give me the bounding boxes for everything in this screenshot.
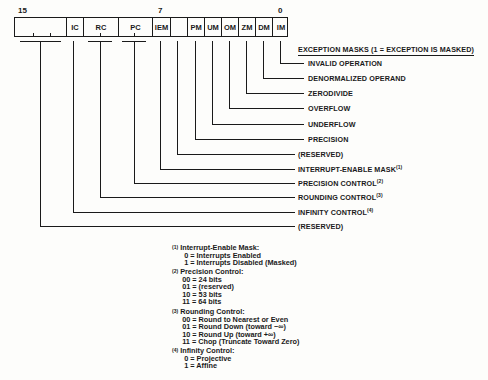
footnote-line: 1 = Interrupts Disabled (Masked) xyxy=(184,258,297,267)
leader-om xyxy=(229,41,230,108)
leader-zm xyxy=(246,41,247,93)
label-underflow: UNDERFLOW xyxy=(308,120,356,129)
leader-pc xyxy=(134,41,135,183)
label-precision: PRECISION xyxy=(308,135,348,144)
leader-h-om xyxy=(229,108,304,109)
footnote-mark: (1) xyxy=(172,244,178,250)
label-invalid-operation: INVALID OPERATION xyxy=(308,59,382,68)
leader-h-iem xyxy=(160,169,295,170)
cell-zm: ZM xyxy=(238,18,255,36)
cell-reserved-bit6 xyxy=(170,18,187,36)
cell-im: IM xyxy=(272,18,289,36)
leader-h-zm xyxy=(246,93,304,94)
footnote-mark: (2) xyxy=(172,268,178,274)
label-overflow: OVERFLOW xyxy=(308,104,350,113)
footnote-3: (3) Rounding Control: 00 = Round to Near… xyxy=(172,308,299,346)
label-text: PRECISION CONTROL xyxy=(298,179,377,188)
label-rounding-control: ROUNDING CONTROL(3) xyxy=(298,193,383,202)
label-denormalized-operand: DENORMALIZED OPERAND xyxy=(308,74,406,83)
leader-um xyxy=(212,41,213,124)
footnote-ref: (3) xyxy=(376,192,382,198)
leader-h-dm xyxy=(263,78,304,79)
leader-pm xyxy=(195,41,196,139)
footnote-mark: (3) xyxy=(172,308,178,314)
label-text: INTERRUPT-ENABLE MASK xyxy=(298,165,396,174)
cell-dm: DM xyxy=(255,18,272,36)
label-reserved-high: (RESERVED) xyxy=(298,222,343,231)
leader-h-pm xyxy=(195,139,304,140)
footnote-ref: (4) xyxy=(367,207,373,213)
footnote-ref: (1) xyxy=(396,164,402,170)
leader-h-ic xyxy=(73,212,295,213)
bit-number-15: 15 xyxy=(18,6,27,15)
footnote-ref: (2) xyxy=(377,178,383,184)
exception-masks-header: EXCEPTION MASKS (1 = EXCEPTION IS MASKED… xyxy=(298,45,474,56)
leader-iem xyxy=(160,41,161,169)
tick-mark xyxy=(134,33,135,37)
cell-pm: PM xyxy=(187,18,204,36)
leader-reserved-high xyxy=(40,41,41,226)
label-reserved-bit6: (RESERVED) xyxy=(298,150,343,159)
tick-mark xyxy=(100,33,101,37)
leader-h-im xyxy=(280,63,304,64)
leader-h-um xyxy=(212,124,304,125)
leader-dm xyxy=(263,41,264,78)
footnote-line: 1 = Affine xyxy=(184,361,217,370)
label-infinity-control: INFINITY CONTROL(4) xyxy=(298,208,373,217)
leader-ic xyxy=(73,41,74,212)
label-zerodivide: ZERODIVIDE xyxy=(308,89,353,98)
footnote-4: (4) Infinity Control: 0 = Projective 1 =… xyxy=(172,347,234,370)
label-text: ROUNDING CONTROL xyxy=(298,193,376,202)
label-interrupt-enable-mask: INTERRUPT-ENABLE MASK(1) xyxy=(298,165,402,174)
control-word-register: IC RC PC IEM PM UM OM ZM DM IM xyxy=(14,17,288,37)
footnote-mark: (4) xyxy=(172,347,178,353)
footnote-1: (1) Interrupt-Enable Mask: 0 = Interrupt… xyxy=(172,244,297,267)
leader-h-pc xyxy=(134,183,295,184)
label-precision-control: PRECISION CONTROL(2) xyxy=(298,179,383,188)
cell-om: OM xyxy=(221,18,238,36)
cell-um: UM xyxy=(204,18,221,36)
cell-iem: IEM xyxy=(152,18,170,36)
leader-h-rc xyxy=(100,197,295,198)
cell-ic: IC xyxy=(66,18,83,36)
leader-h-reserved-bit6 xyxy=(177,154,295,155)
leader-im xyxy=(280,41,281,63)
tick-mark xyxy=(33,33,34,37)
leader-rc xyxy=(100,41,101,197)
tick-mark xyxy=(50,33,51,37)
label-text: INFINITY CONTROL xyxy=(298,208,367,217)
cell-reserved-high xyxy=(15,18,66,36)
bit-number-0: 0 xyxy=(278,6,282,15)
footnote-2: (2) Precision Control: 00 = 24 bits 01 =… xyxy=(172,268,243,306)
leader-reserved-bit6 xyxy=(177,41,178,154)
bit-number-7: 7 xyxy=(158,6,162,15)
leader-h-reserved-high xyxy=(40,226,295,227)
footnote-line: 11 = 64 bits xyxy=(182,297,221,306)
